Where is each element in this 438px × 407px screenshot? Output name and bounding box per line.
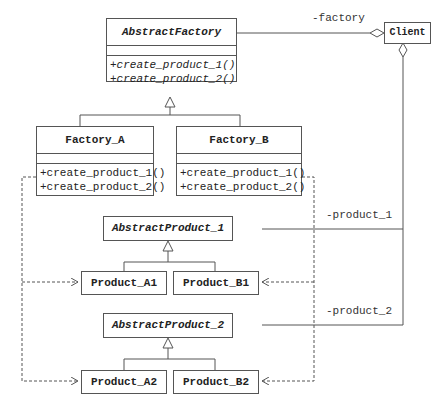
- aggregation-diamond-icon: [370, 29, 384, 37]
- class-name: AbstractFactory: [107, 19, 236, 45]
- class-factory-a[interactable]: Factory_A +create_product_1() +create_pr…: [36, 126, 154, 196]
- class-name: Factory_B: [177, 127, 301, 153]
- attributes-compartment: [107, 45, 236, 55]
- class-name: Product_B2: [174, 371, 258, 393]
- generalization-triangle-icon: [165, 97, 175, 107]
- dependency-b2-line: [262, 177, 314, 381]
- operations-compartment: +create_product_1() +create_product_2(): [107, 55, 236, 88]
- operations-compartment: +create_product_1() +create_product_2(): [177, 163, 301, 196]
- class-name: Factory_A: [37, 127, 153, 153]
- class-name: Product_A2: [82, 371, 166, 393]
- operation: +create_product_1(): [180, 166, 298, 180]
- class-abstract-product-2[interactable]: AbstractProduct_2: [103, 313, 233, 338]
- operation: +create_product_2(): [40, 180, 150, 194]
- generalization-triangle-icon: [163, 241, 173, 251]
- generalization-triangle-icon: [163, 338, 173, 348]
- class-product-a1[interactable]: Product_A1: [81, 271, 167, 295]
- operation: +create_product_1(): [40, 166, 150, 180]
- class-product-a2[interactable]: Product_A2: [81, 370, 167, 394]
- product1-role-label: -product_1: [326, 209, 392, 221]
- class-name: AbstractProduct_2: [104, 314, 232, 337]
- class-product-b1[interactable]: Product_B1: [173, 271, 259, 295]
- class-client[interactable]: Client: [384, 22, 431, 44]
- product2-role-label: -product_2: [326, 305, 392, 317]
- class-name: Client: [385, 23, 430, 43]
- operation: +create_product_2(): [180, 180, 298, 194]
- class-name: Product_A1: [82, 272, 166, 294]
- class-factory-b[interactable]: Factory_B +create_product_1() +create_pr…: [176, 126, 302, 196]
- class-name: Product_B1: [174, 272, 258, 294]
- class-name: AbstractProduct_1: [104, 217, 232, 240]
- class-product-b2[interactable]: Product_B2: [173, 370, 259, 394]
- attributes-compartment: [37, 153, 153, 163]
- operations-compartment: +create_product_1() +create_product_2(): [37, 163, 153, 196]
- class-abstract-product-1[interactable]: AbstractProduct_1: [103, 216, 233, 241]
- class-abstract-factory[interactable]: AbstractFactory +create_product_1() +cre…: [106, 18, 237, 82]
- aggregation-diamond-icon: [399, 43, 407, 57]
- attributes-compartment: [177, 153, 301, 163]
- operation: +create_product_2(): [110, 72, 233, 86]
- factory-role-label: -factory: [312, 12, 365, 24]
- dependency-a2-line: [22, 177, 78, 381]
- operation: +create_product_1(): [110, 58, 233, 72]
